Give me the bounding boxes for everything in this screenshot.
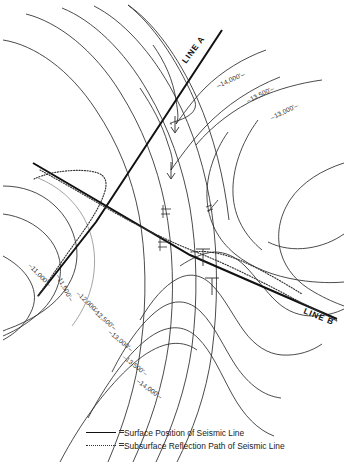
- map-legend: Surface Position of Seismic Line Subsurf…: [86, 427, 336, 453]
- syncline-axis-mark: [167, 162, 175, 179]
- equals-icon: [119, 430, 124, 435]
- legend-item-surface-position: Surface Position of Seismic Line: [86, 427, 336, 438]
- contour-line: [268, 234, 344, 249]
- contour-line: [196, 80, 322, 145]
- contour-label: –13,500'–: [121, 353, 149, 377]
- equals-icon: [119, 443, 124, 448]
- legend-key-dotted-line: [86, 441, 124, 451]
- contour-label: –14,000'–: [216, 70, 246, 89]
- contour-label: –13,500'–: [245, 85, 275, 104]
- contour-map-canvas: –14,000'– –13,500'– –13,000'– –11,000'– …: [0, 0, 344, 465]
- contour-group-syncline-noses: [128, 5, 322, 170]
- seismic-line-b-subsurface-bulge: [191, 251, 302, 294]
- structural-contour-map-figure: –14,000'– –13,500'– –13,000'– –11,000'– …: [0, 0, 344, 465]
- contour-line: [26, 14, 172, 462]
- contour-label: –13,000'–: [269, 102, 299, 121]
- dip-tick-mark: [206, 200, 218, 212]
- contour-label: –12,500'–: [91, 307, 118, 332]
- contour-line: [128, 5, 229, 220]
- legend-label-surface-position: Surface Position of Seismic Line: [124, 428, 244, 438]
- legend-item-subsurface-path: Subsurface Reflection Path of Seismic Li…: [86, 440, 336, 451]
- contour-group-northwest: [3, 5, 229, 462]
- contour-line: [153, 45, 266, 124]
- contour-line: [62, 8, 196, 462]
- solid-line-swatch: [86, 432, 116, 433]
- contour-line: [140, 275, 322, 355]
- contour-label: –13,000'–: [107, 328, 134, 353]
- legend-label-subsurface-path: Subsurface Reflection Path of Seismic Li…: [124, 441, 285, 451]
- contour-line: [279, 163, 344, 306]
- legend-key-solid-line: [86, 428, 124, 438]
- contour-line: [233, 120, 262, 250]
- seismic-line-b-label: LINE B: [302, 307, 335, 327]
- dotted-line-swatch: [86, 445, 116, 446]
- contour-group-southwest: [3, 186, 77, 340]
- structure-axis-marks: [158, 116, 219, 295]
- contour-line: [88, 328, 274, 436]
- contour-line: [3, 186, 77, 331]
